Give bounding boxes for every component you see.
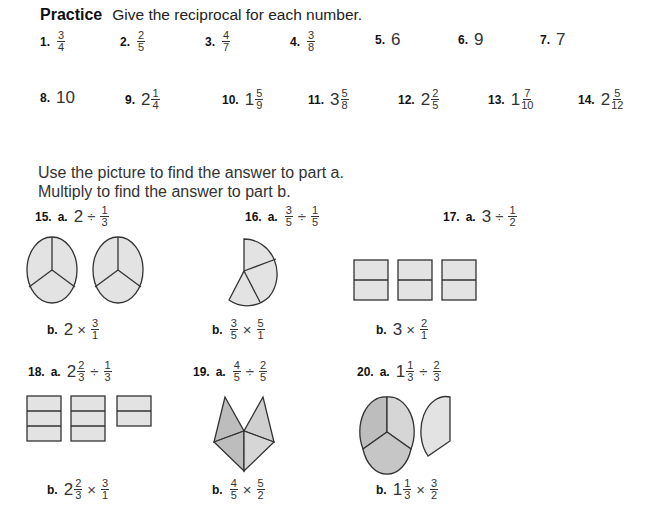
problem-20-part-a: 20.a.113÷23 [357, 360, 442, 383]
mixed-number: 7 [556, 30, 565, 50]
instruction-text: Give the reciprocal for each number. [112, 6, 362, 24]
fraction: 59 [255, 88, 263, 111]
item-number: 1. [40, 35, 50, 49]
item-number: 9. [125, 93, 135, 107]
denominator: 5 [138, 42, 144, 53]
reciprocal-item: 8.10 [40, 88, 75, 108]
problem-number: 18. [28, 365, 45, 379]
whole-part: 1 [396, 362, 405, 382]
whole-part: 2 [141, 90, 150, 110]
fraction: 45 [230, 478, 238, 501]
fraction: 32 [430, 478, 438, 501]
problem-16-part-a: 16.a.35÷15 [245, 205, 320, 228]
three-squares-halves-picture [352, 258, 487, 304]
item-number: 3. [205, 35, 215, 49]
reciprocal-item: 10.159 [222, 88, 264, 111]
fraction: 25 [259, 360, 267, 383]
denominator: 2 [431, 490, 437, 501]
operator: ÷ [495, 208, 503, 225]
part-label: a. [216, 365, 226, 379]
operator: × [77, 321, 86, 338]
mixed-number: 35 [229, 318, 239, 341]
reciprocal-item: 13.1710 [488, 88, 534, 111]
mixed-number: 6 [391, 30, 400, 50]
part-label: a. [466, 210, 476, 224]
problem-20-part-b: b.113×32 [376, 478, 439, 501]
fraction: 13 [403, 478, 411, 501]
directions: Use the picture to find the answer to pa… [38, 163, 344, 201]
fraction: 15 [311, 205, 319, 228]
item-number: 8. [40, 91, 50, 105]
item-number: 5. [375, 33, 385, 47]
mixed-number: 2 [74, 207, 83, 227]
denominator: 1 [102, 490, 108, 501]
denominator: 1 [258, 330, 264, 341]
whole-part: 1 [393, 480, 402, 500]
expression-a: 20.a.113÷23 [357, 360, 442, 383]
mixed-number: 9 [474, 30, 483, 50]
part-label: b. [212, 323, 223, 337]
denominator: 3 [407, 372, 413, 383]
problem-18-part-a: 18.a.223÷13 [28, 360, 113, 383]
operator: ÷ [90, 363, 98, 380]
denominator: 3 [105, 372, 111, 383]
expression-a: 17.a.3÷12 [443, 205, 518, 228]
two-circles-thirds-picture [25, 232, 155, 314]
problem-number: 19. [193, 365, 210, 379]
whole-part: 2 [64, 320, 73, 340]
fraction: 25 [137, 30, 145, 53]
expression-b: b.223×31 [47, 478, 110, 501]
item-number: 12. [398, 93, 415, 107]
problem-15-part-a: 15.a.2÷13 [35, 205, 110, 228]
denominator: 3 [434, 372, 440, 383]
whole-part: 1 [245, 90, 254, 110]
mixed-number: 223 [67, 360, 87, 383]
mixed-number: 159 [245, 88, 265, 111]
denominator: 1 [421, 330, 427, 341]
mixed-number: 3 [482, 207, 491, 227]
denominator: 5 [234, 372, 240, 383]
denominator: 5 [286, 217, 292, 228]
denominator: 3 [75, 490, 81, 501]
part-label: b. [376, 483, 387, 497]
item-number: 7. [540, 33, 550, 47]
item-number: 13. [488, 93, 505, 107]
fraction: 35 [285, 205, 293, 228]
problem-16-part-b: b.35×51 [212, 318, 266, 341]
mixed-number: 3 [393, 320, 402, 340]
part-label: b. [212, 483, 223, 497]
whole-part: 10 [56, 88, 75, 108]
practice-header: Practice Give the reciprocal for each nu… [40, 6, 362, 24]
mixed-number: 2512 [601, 88, 625, 111]
denominator: 8 [308, 42, 314, 53]
mixed-number: 225 [421, 88, 441, 111]
problem-number: 20. [357, 365, 374, 379]
mixed-number: 45 [229, 478, 239, 501]
fraction: 25 [431, 88, 439, 111]
fraction: 34 [57, 30, 65, 53]
mixed-number: 1710 [511, 88, 535, 111]
item-number: 2. [120, 35, 130, 49]
operator: × [406, 321, 415, 338]
whole-part: 3 [393, 320, 402, 340]
reciprocal-item: 3.47 [205, 30, 231, 53]
expression-b: b.35×51 [212, 318, 266, 341]
mixed-number: 223 [64, 478, 84, 501]
whole-part: 2 [601, 90, 610, 110]
three-fifths-circle-picture [222, 236, 292, 312]
item-number: 6. [458, 33, 468, 47]
denominator: 9 [256, 100, 262, 111]
reciprocal-item: 12.225 [398, 88, 440, 111]
problem-number: 17. [443, 210, 460, 224]
reciprocal-item: 4.38 [290, 30, 316, 53]
item-number: 11. [308, 93, 324, 107]
denominator: 2 [509, 217, 515, 228]
part-label: a. [380, 365, 390, 379]
reciprocal-item: 7.7 [540, 30, 565, 50]
expression-b: b.113×32 [376, 478, 439, 501]
reciprocal-item: 5.6 [375, 30, 400, 50]
problem-17-part-b: b.3×21 [376, 318, 429, 341]
fraction: 13 [406, 360, 414, 383]
whole-part: 3 [482, 207, 491, 227]
denominator: 3 [404, 490, 410, 501]
